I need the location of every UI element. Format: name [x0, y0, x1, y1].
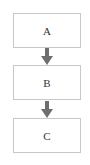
node-a-label: A — [43, 25, 51, 37]
node-b-label: B — [43, 77, 50, 89]
arrow-down-icon — [40, 101, 54, 118]
arrow-down-icon — [40, 48, 54, 65]
node-c-label: C — [43, 130, 50, 142]
node-c: C — [13, 118, 81, 153]
node-a: A — [13, 13, 81, 48]
node-b: B — [13, 65, 81, 100]
